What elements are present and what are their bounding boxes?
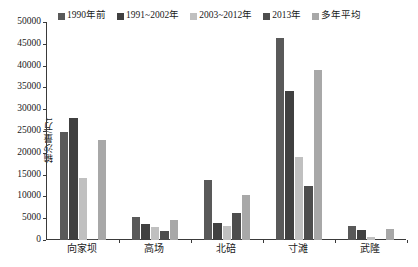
bar[interactable] (88, 239, 97, 240)
bar[interactable] (295, 157, 304, 240)
bar[interactable] (98, 140, 107, 240)
bar[interactable] (386, 229, 395, 240)
bar[interactable] (213, 223, 222, 240)
bar[interactable] (242, 195, 251, 240)
y-tick-label: 10000 (17, 192, 41, 202)
plot-area: 输沙量/万t 050001000015000200002500030000350… (46, 22, 406, 240)
legend-label: 1990年前 (67, 11, 106, 21)
y-tick-mark (43, 175, 46, 176)
y-tick-mark (43, 66, 46, 67)
x-axis-label-5: 武隆 (334, 244, 406, 254)
bar[interactable] (314, 70, 323, 240)
bar-group-5 (335, 22, 407, 240)
legend-label: 2013年 (272, 11, 301, 21)
y-tick-label: 40000 (17, 61, 41, 71)
bar[interactable] (141, 224, 150, 240)
y-tick-label: 15000 (17, 170, 41, 180)
legend-swatch-icon (58, 13, 65, 20)
y-tick-mark (43, 109, 46, 110)
sediment-transport-bar-chart: 1990年前1991~2002年2003~2012年2013年多年平均 输沙量/… (0, 0, 418, 267)
legend-swatch-icon (190, 13, 197, 20)
bar[interactable] (170, 220, 179, 240)
y-tick-label: 25000 (17, 126, 41, 136)
y-tick-mark (43, 153, 46, 154)
x-tick-mark (191, 240, 192, 243)
bar-group-1 (47, 22, 119, 240)
legend-item-5[interactable]: 多年平均 (312, 11, 361, 21)
y-tick-mark (43, 240, 46, 241)
x-tick-mark (335, 240, 336, 243)
bar[interactable] (204, 180, 213, 240)
bar[interactable] (348, 226, 357, 240)
bar[interactable] (285, 91, 294, 240)
x-axis-label-1: 向家坝 (46, 244, 118, 254)
bar-group-4 (263, 22, 335, 240)
bar[interactable] (160, 231, 169, 240)
y-tick-mark (43, 22, 46, 23)
y-tick-mark (43, 131, 46, 132)
y-tick-label: 5000 (22, 213, 41, 223)
bar[interactable] (79, 178, 88, 240)
y-tick-mark (43, 87, 46, 88)
y-tick-label: 30000 (17, 104, 41, 114)
bar[interactable] (69, 118, 78, 240)
legend-item-2[interactable]: 1991~2002年 (117, 11, 179, 21)
chart-legend: 1990年前1991~2002年2003~2012年2013年多年平均 (58, 9, 410, 23)
legend-swatch-icon (263, 13, 270, 20)
bar[interactable] (276, 38, 285, 240)
y-tick-label: 50000 (17, 17, 41, 27)
legend-label: 多年平均 (321, 11, 361, 21)
bar[interactable] (60, 132, 69, 240)
y-tick-mark (43, 196, 46, 197)
legend-item-3[interactable]: 2003~2012年 (190, 11, 252, 21)
x-axis-label-3: 北碚 (190, 244, 262, 254)
bar-group-2 (119, 22, 191, 240)
bar[interactable] (223, 226, 232, 240)
legend-label: 1991~2002年 (126, 11, 179, 21)
legend-item-4[interactable]: 2013年 (263, 11, 301, 21)
legend-item-1[interactable]: 1990年前 (58, 11, 106, 21)
legend-swatch-icon (312, 13, 319, 20)
x-tick-mark (407, 240, 408, 243)
bar[interactable] (232, 213, 241, 240)
y-tick-mark (43, 44, 46, 45)
y-tick-label: 0 (36, 235, 41, 245)
x-tick-mark (263, 240, 264, 243)
bar[interactable] (304, 186, 313, 241)
bar[interactable] (132, 217, 141, 240)
y-tick-label: 20000 (17, 148, 41, 158)
bars-layer (47, 22, 406, 240)
y-tick-label: 45000 (17, 39, 41, 49)
legend-swatch-icon (117, 13, 124, 20)
y-tick-mark (43, 218, 46, 219)
bar[interactable] (151, 227, 160, 240)
bar-group-3 (191, 22, 263, 240)
x-axis-label-4: 寸滩 (262, 244, 334, 254)
bar[interactable] (367, 237, 376, 240)
y-tick-label: 35000 (17, 83, 41, 93)
x-axis-label-2: 高场 (118, 244, 190, 254)
legend-label: 2003~2012年 (199, 11, 252, 21)
bar[interactable] (357, 230, 366, 240)
x-tick-mark (119, 240, 120, 243)
